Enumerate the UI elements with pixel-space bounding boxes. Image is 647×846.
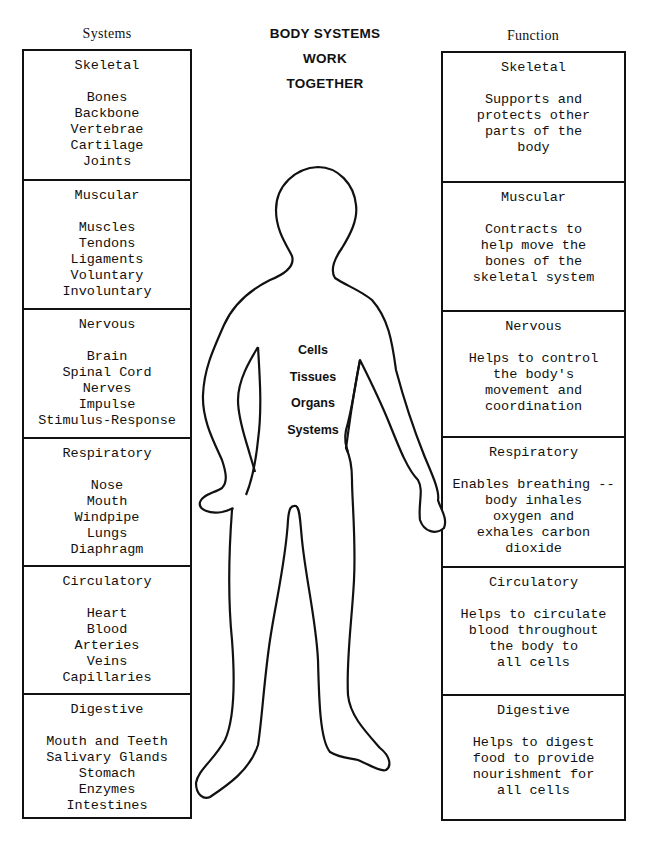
level-label: Systems — [268, 423, 358, 450]
level-label: Cells — [268, 343, 358, 370]
level-label: Tissues — [268, 370, 358, 397]
organization-levels: Cells Tissues Organs Systems — [268, 343, 358, 449]
level-label: Organs — [268, 396, 358, 423]
